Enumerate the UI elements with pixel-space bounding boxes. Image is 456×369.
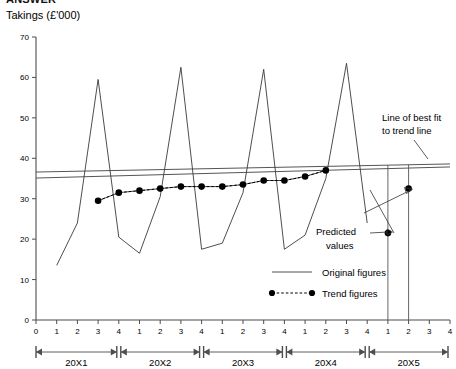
year-band-label: 20X4 xyxy=(315,357,337,368)
svg-text:4: 4 xyxy=(282,327,287,336)
year-band: 20X3 xyxy=(204,346,283,368)
svg-text:1: 1 xyxy=(137,327,142,336)
year-band-axis: 20X120X220X320X420X5 xyxy=(36,346,448,368)
best-fit-annotation-line2: to trend line xyxy=(382,125,432,136)
svg-text:0: 0 xyxy=(34,327,39,336)
svg-text:50: 50 xyxy=(20,114,29,123)
year-band-label: 20X5 xyxy=(398,357,420,368)
svg-text:1: 1 xyxy=(220,327,225,336)
y-axis-tick-labels: 010203040506070 xyxy=(20,33,29,325)
year-band-label: 20X2 xyxy=(149,357,171,368)
legend-label-original: Original figures xyxy=(322,267,386,278)
svg-text:10: 10 xyxy=(20,276,29,285)
best-fit-leader-line xyxy=(414,140,428,159)
svg-text:3: 3 xyxy=(427,327,432,336)
svg-text:2: 2 xyxy=(158,327,163,336)
legend-label-trend: Trend figures xyxy=(322,288,378,299)
chart-legend: Original figures Trend figures xyxy=(269,267,386,299)
year-band: 20X4 xyxy=(286,346,365,368)
svg-text:3: 3 xyxy=(179,327,184,336)
svg-text:4: 4 xyxy=(448,327,453,336)
x-axis-tick-labels: 012341234123412341234 xyxy=(34,327,453,336)
year-band-label: 20X1 xyxy=(65,357,87,368)
legend-swatch-trend-dot-right xyxy=(309,290,315,296)
predicted-values-annotation-line2: values xyxy=(326,240,354,251)
y-axis-ticks xyxy=(32,37,36,320)
year-band-label: 20X3 xyxy=(232,357,254,368)
svg-text:30: 30 xyxy=(20,195,29,204)
best-fit-annotation-line1: Line of best fit xyxy=(382,112,442,123)
svg-text:1: 1 xyxy=(54,327,59,336)
year-band: 20X2 xyxy=(121,346,200,368)
svg-text:4: 4 xyxy=(199,327,204,336)
x-axis-ticks xyxy=(36,320,450,324)
takings-time-series-chart: 010203040506070 012341234123412341234 Li… xyxy=(0,0,456,369)
legend-swatch-trend-dot-left xyxy=(269,290,275,296)
year-band: 20X1 xyxy=(36,346,117,368)
svg-text:0: 0 xyxy=(25,316,30,325)
svg-text:4: 4 xyxy=(117,327,122,336)
svg-text:70: 70 xyxy=(20,33,29,42)
svg-text:1: 1 xyxy=(386,327,391,336)
predicted-values-annotation-line1: Predicted xyxy=(316,226,356,237)
page-title: ANSWER xyxy=(6,0,56,5)
svg-text:3: 3 xyxy=(344,327,349,336)
svg-text:20: 20 xyxy=(20,235,29,244)
svg-text:2: 2 xyxy=(324,327,329,336)
y-axis-title: Takings (£'000) xyxy=(6,9,80,21)
svg-text:2: 2 xyxy=(241,327,246,336)
svg-text:4: 4 xyxy=(365,327,370,336)
svg-text:40: 40 xyxy=(20,154,29,163)
svg-text:2: 2 xyxy=(75,327,80,336)
year-band: 20X5 xyxy=(369,346,448,368)
svg-text:2: 2 xyxy=(406,327,411,336)
svg-text:3: 3 xyxy=(261,327,266,336)
trend-figures-markers xyxy=(95,167,329,204)
svg-text:60: 60 xyxy=(20,73,29,82)
svg-text:1: 1 xyxy=(303,327,308,336)
chart-container: ANSWER Takings (£'000) 010203040506070 0… xyxy=(0,0,456,369)
svg-text:3: 3 xyxy=(96,327,101,336)
